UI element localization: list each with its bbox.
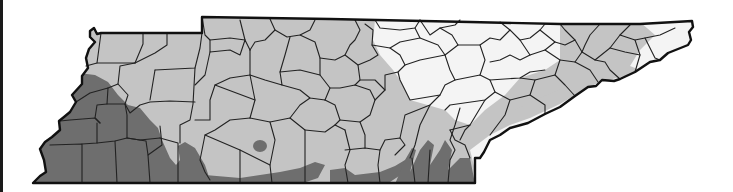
dark-zone-spot [253,140,267,152]
tennessee-map [0,0,733,192]
